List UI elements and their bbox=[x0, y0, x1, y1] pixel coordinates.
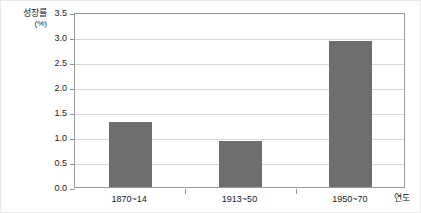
y-axis-tick-label: 0.0 bbox=[27, 184, 67, 193]
bar bbox=[109, 122, 152, 187]
x-axis-category-label: 1913~50 bbox=[200, 194, 280, 204]
y-axis-tick bbox=[70, 164, 75, 165]
y-axis-tick-label: 1.5 bbox=[27, 109, 67, 118]
y-axis-tick-label: 0.5 bbox=[27, 159, 67, 168]
y-axis-tick-label: 1.0 bbox=[27, 134, 67, 143]
y-axis-tick-label: 2.0 bbox=[27, 84, 67, 93]
y-axis-tick-label: 2.5 bbox=[27, 59, 67, 68]
x-axis-tick bbox=[185, 189, 186, 194]
y-axis-tick-label: 3.5 bbox=[27, 9, 67, 18]
y-axis-tick bbox=[70, 89, 75, 90]
x-axis-tick bbox=[296, 189, 297, 194]
y-axis-tick bbox=[70, 189, 75, 190]
y-axis-tick bbox=[70, 14, 75, 15]
y-axis-tick bbox=[70, 39, 75, 40]
y-axis-tick bbox=[70, 139, 75, 140]
y-axis-unit-text: (%) bbox=[3, 19, 47, 29]
bar bbox=[219, 141, 262, 188]
y-axis-tick bbox=[70, 114, 75, 115]
x-axis-name: 연도 bbox=[394, 193, 410, 203]
plot-area bbox=[74, 13, 405, 188]
bar bbox=[329, 41, 372, 188]
x-axis-category-label: 1950~70 bbox=[310, 194, 390, 204]
x-axis-category-label: 1870~14 bbox=[89, 194, 169, 204]
y-axis-tick-label: 3.0 bbox=[27, 34, 67, 43]
y-axis-tick bbox=[70, 64, 75, 65]
chart-figure: 성장률 (%) 0.00.51.01.52.02.53.03.5 1870~14… bbox=[0, 0, 421, 213]
